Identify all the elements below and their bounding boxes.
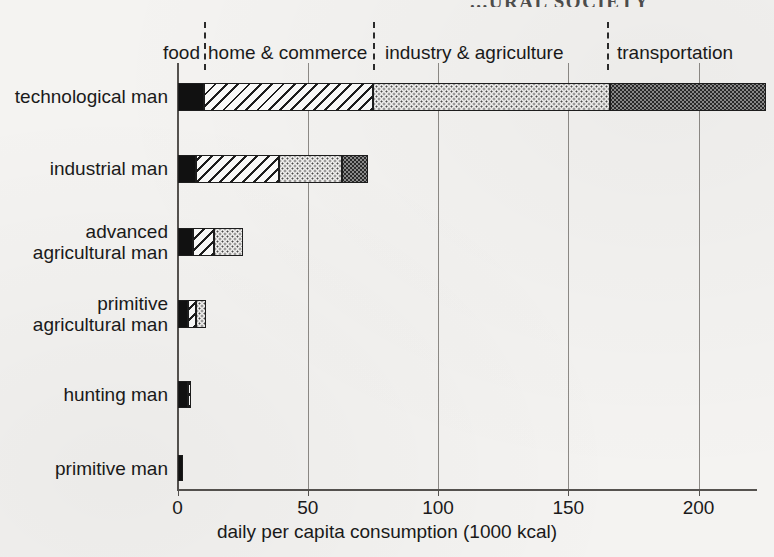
tick-label-50: 50 — [297, 497, 318, 519]
tick-label-100: 100 — [422, 497, 454, 519]
row-label-4: hunting man — [63, 384, 168, 405]
row-label-0: technological man — [15, 86, 168, 107]
bar-segment-food-row-5 — [178, 455, 183, 481]
bar-segment-food-row-2 — [178, 228, 194, 256]
x-axis-line — [177, 489, 757, 491]
category-label-1: home & commerce — [208, 42, 367, 64]
row-label-2: advanced agricultural man — [33, 221, 168, 263]
row-label-3: primitive agricultural man — [33, 293, 168, 335]
bar-segment-home-row-1 — [196, 155, 279, 183]
bar-segment-home-row-0 — [204, 83, 373, 111]
bar-segment-home-row-2 — [193, 228, 214, 256]
gridline-50 — [308, 63, 309, 490]
gridline-100 — [438, 63, 439, 490]
plot-area: foodhome & commerceindustry & agricultur… — [0, 0, 774, 557]
category-label-0: food — [163, 42, 200, 64]
bar-segment-transport-row-1 — [342, 155, 368, 183]
row-label-1: industrial man — [50, 158, 168, 179]
bar-segment-home-row-3 — [188, 300, 196, 328]
bar-row-0 — [178, 83, 767, 111]
tick-label-200: 200 — [683, 497, 715, 519]
divider-0 — [204, 22, 206, 70]
divider-2 — [607, 22, 609, 70]
row-label-5: primitive man — [55, 458, 168, 479]
bar-segment-transport-row-0 — [610, 83, 766, 111]
bar-segment-industry-row-3 — [196, 300, 206, 328]
tick-100 — [438, 489, 439, 496]
bar-segment-food-row-3 — [178, 300, 188, 328]
tick-label-0: 0 — [172, 497, 183, 519]
bar-segment-food-row-0 — [178, 83, 204, 111]
divider-1 — [373, 22, 375, 70]
bar-row-5 — [178, 455, 183, 481]
category-label-3: transportation — [617, 42, 733, 64]
bar-row-4 — [178, 381, 191, 408]
bar-segment-industry-row-2 — [214, 228, 243, 256]
bar-segment-food-row-4 — [178, 381, 188, 408]
bar-segment-industry-row-1 — [279, 155, 342, 183]
bar-row-2 — [178, 228, 243, 256]
bar-row-1 — [178, 155, 368, 183]
gridline-150 — [568, 63, 569, 490]
bar-segment-industry-row-0 — [373, 83, 610, 111]
tick-label-150: 150 — [552, 497, 584, 519]
tick-0 — [178, 489, 179, 496]
gridline-200 — [699, 63, 700, 490]
category-label-2: industry & agriculture — [385, 42, 563, 64]
bar-segment-food-row-1 — [178, 155, 196, 183]
tick-50 — [308, 489, 309, 496]
x-axis-title: daily per capita consumption (1000 kcal) — [0, 521, 774, 543]
tick-150 — [568, 489, 569, 496]
y-axis-line — [177, 63, 179, 490]
tick-200 — [699, 489, 700, 496]
energy-consumption-bar-chart: ...URAL SOCIETY foodhome & commerceindus… — [0, 0, 774, 557]
bar-segment-home-row-4 — [188, 381, 191, 408]
bar-row-3 — [178, 300, 207, 328]
